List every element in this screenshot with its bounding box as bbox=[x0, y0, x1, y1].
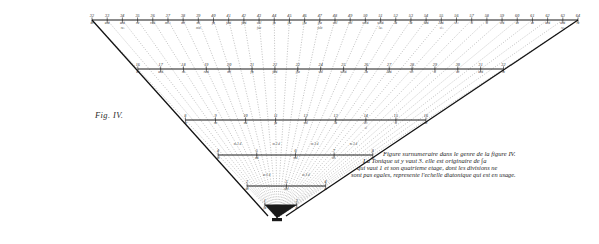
tick-note-name: sol bbox=[318, 70, 323, 74]
scale-tick-label: 36re♯ bbox=[150, 13, 155, 26]
interval-label: m 3 d bbox=[272, 142, 279, 146]
radiating-division-line bbox=[138, 20, 277, 218]
scale-tick-label: 11fa bbox=[274, 113, 278, 126]
scale-tick-label: 16ut bbox=[424, 113, 428, 126]
radiating-division-line bbox=[277, 20, 487, 218]
tick-numeral: 42 bbox=[241, 13, 246, 18]
tick-note-name: ut♯ bbox=[105, 21, 110, 25]
tick-numeral: 1 bbox=[263, 198, 266, 203]
scale-tick-label: 52la bbox=[394, 13, 398, 26]
tick-note-name: mi bbox=[243, 121, 247, 125]
caption-line-3: qui vaut 1 et son quatrieme etage, dont … bbox=[357, 164, 516, 171]
scale-tick-label: 25sol♯ bbox=[340, 62, 346, 75]
caption-line-1: Figure surnumeraire dans le genre de la … bbox=[383, 150, 516, 157]
scale-tick-label: 46∫la bbox=[302, 13, 306, 26]
tick-numeral: 48 bbox=[333, 13, 338, 18]
tick-note-name: sol bbox=[284, 187, 289, 191]
tick-note-alt: si♭ bbox=[439, 26, 444, 30]
tick-note-alt: sol♯ bbox=[317, 26, 322, 30]
scale-tick-label: 45∫la bbox=[287, 13, 291, 26]
tick-note-name: si bbox=[433, 70, 437, 74]
scale-tick-label: 32ut bbox=[90, 13, 94, 26]
scale-tick-label: 26la bbox=[364, 62, 368, 75]
tick-note-name: ∫la bbox=[296, 70, 300, 74]
scale-tick-label: 63ut♯re♭ bbox=[560, 13, 565, 30]
tick-note-name: si bbox=[394, 121, 398, 125]
scale-tick-label: 4ut bbox=[324, 179, 327, 192]
tick-note-name: ut♯ bbox=[158, 70, 163, 74]
tick-numeral: 57 bbox=[470, 13, 474, 18]
tick-numeral: 62 bbox=[545, 13, 550, 18]
radiating-division-line bbox=[183, 20, 277, 218]
tick-note-name: ut♯ bbox=[560, 21, 565, 25]
scale-tick-label: 31ut♯ bbox=[478, 62, 483, 75]
tick-note-name: sol bbox=[348, 21, 353, 25]
tick-note-name: ∫a bbox=[263, 206, 266, 210]
tick-numeral: 28 bbox=[410, 62, 415, 67]
tick-note-name: mi♭ bbox=[165, 21, 171, 25]
tick-numeral: 52 bbox=[394, 13, 398, 18]
tick-note-name: si bbox=[485, 21, 489, 25]
scale-tick-label: 18re bbox=[181, 62, 185, 75]
tick-numeral: 40 bbox=[211, 13, 215, 18]
scale-tick-label: 37mi♭ bbox=[165, 13, 171, 26]
scale-tick-label: 42fa♯ bbox=[241, 13, 246, 26]
scale-tick-label: 22fa♯ bbox=[272, 62, 277, 75]
scale-tick-label: 24sol bbox=[318, 62, 323, 75]
tick-numeral: 4 bbox=[324, 179, 327, 184]
tick-numeral: 41 bbox=[226, 13, 231, 18]
tick-note-name: sol♯ bbox=[377, 21, 383, 25]
tick-note-name: ut♯ bbox=[120, 21, 125, 25]
scale-tick-label: 7si♭ bbox=[332, 148, 337, 161]
scale-tick-label: 53la bbox=[409, 13, 413, 26]
caption-line-2: La Tonique ut y vaut 3. elle est origina… bbox=[363, 157, 516, 164]
tick-note-name: ∫la bbox=[287, 21, 291, 25]
tick-numeral: 32 bbox=[90, 13, 94, 18]
caption-block: Figure surnumeraire dans le genre de la … bbox=[383, 150, 516, 178]
radiating-division-line bbox=[277, 20, 548, 218]
tick-note-name: ∫la bbox=[302, 21, 306, 25]
radiating-division-line bbox=[277, 20, 411, 218]
tick-numeral: 45 bbox=[287, 13, 291, 18]
scale-tick-label: 35re bbox=[135, 13, 139, 26]
scale-tick-label: 1∫a bbox=[263, 198, 266, 211]
tick-numeral: 35 bbox=[135, 13, 139, 18]
tick-note-name: la♯ bbox=[439, 21, 444, 25]
scale-tick-label: 41fa♯ bbox=[226, 13, 231, 26]
scale-tick-label: 58si bbox=[485, 13, 489, 26]
tick-numeral: 12 bbox=[303, 113, 308, 118]
tick-note-name: ut bbox=[295, 206, 298, 210]
tick-numeral: 32 bbox=[501, 62, 505, 67]
tick-numeral: 59 bbox=[500, 13, 505, 18]
scale-tick-label: 30ut bbox=[456, 62, 460, 75]
tick-note-name: mi bbox=[181, 21, 185, 25]
tick-numeral: 55 bbox=[439, 13, 444, 18]
scale-tick-label: 19re♯ bbox=[204, 62, 209, 75]
scale-tick-label: 23∫la bbox=[296, 62, 300, 75]
scale-tick-label: 57si bbox=[470, 13, 474, 26]
scale-tick-label: 5mi bbox=[255, 148, 259, 161]
radiating-division-line bbox=[277, 20, 441, 218]
apex-convergence-point bbox=[265, 205, 297, 221]
tick-numeral: 16 bbox=[424, 113, 428, 118]
scale-tick-label: 60ut bbox=[515, 13, 519, 26]
tick-note-alt: mi♯ bbox=[196, 26, 201, 30]
tick-note-name: ut bbox=[530, 21, 534, 25]
tick-numeral: 63 bbox=[560, 13, 565, 18]
scale-tick-label: 47∫lasol♯ bbox=[317, 13, 322, 30]
scale-tick-label: 27la♯ bbox=[387, 62, 392, 75]
scale-tick-label: 48sol bbox=[333, 13, 338, 26]
tick-numeral: 11 bbox=[274, 113, 278, 118]
tick-numeral: 49 bbox=[348, 13, 353, 18]
tick-note-name: si♭ bbox=[454, 21, 459, 25]
tick-note-name: ut bbox=[184, 121, 187, 125]
tick-numeral: 2 bbox=[246, 179, 249, 184]
interval-label: m 3 d bbox=[234, 142, 241, 146]
tick-numeral: 47 bbox=[317, 13, 322, 18]
tick-note-name: ut bbox=[136, 70, 140, 74]
scale-tick-label: 55la♯si♭ bbox=[439, 13, 444, 30]
tick-numeral: 37 bbox=[165, 13, 171, 18]
scale-tick-label: 61ut bbox=[530, 13, 534, 26]
tick-note-name: ut♯ bbox=[478, 70, 483, 74]
tick-numeral: 50 bbox=[362, 13, 368, 18]
